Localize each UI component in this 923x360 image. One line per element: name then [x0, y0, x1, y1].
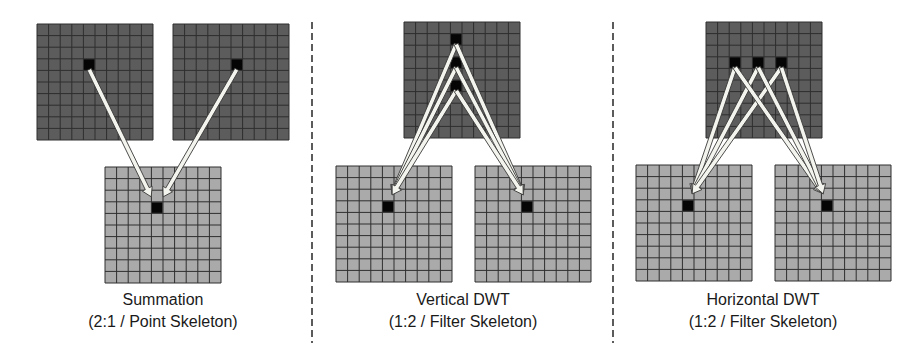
- highlighted-cell: [232, 59, 243, 70]
- highlighted-cell: [522, 201, 533, 212]
- highlighted-cell: [683, 200, 694, 211]
- highlighted-cell: [753, 57, 764, 68]
- panel-subtitle: (1:2 / Filter Skeleton): [323, 311, 603, 333]
- panel-subtitle: (2:1 / Point Skeleton): [23, 311, 303, 333]
- panel-label-vertical-dwt: Vertical DWT (1:2 / Filter Skeleton): [323, 289, 603, 333]
- panel-title: Summation: [23, 289, 303, 311]
- panel-title: Horizontal DWT: [623, 289, 903, 311]
- highlighted-cell: [152, 202, 163, 213]
- highlighted-cell: [451, 34, 462, 45]
- highlighted-cell: [383, 201, 394, 212]
- grid-horizontal-dwt-output-high: [775, 165, 891, 281]
- panel-label-horizontal-dwt: Horizontal DWT (1:2 / Filter Skeleton): [623, 289, 903, 333]
- panel-label-summation: Summation (2:1 / Point Skeleton): [23, 289, 303, 333]
- grid-summation-output: [105, 167, 221, 283]
- grid-vertical-dwt-output-low: [336, 166, 452, 282]
- panel-title: Vertical DWT: [323, 289, 603, 311]
- highlighted-cell: [451, 81, 462, 92]
- highlighted-cell: [84, 59, 95, 70]
- panel-subtitle: (1:2 / Filter Skeleton): [623, 311, 903, 333]
- highlighted-cell: [730, 57, 741, 68]
- highlighted-cell: [822, 200, 833, 211]
- grid-vertical-dwt-output-high: [475, 166, 591, 282]
- highlighted-cell: [776, 57, 787, 68]
